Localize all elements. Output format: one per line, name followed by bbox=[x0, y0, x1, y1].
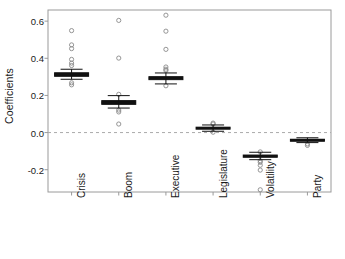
outlier-point bbox=[258, 163, 262, 167]
outlier-point bbox=[164, 47, 168, 51]
outlier-point bbox=[117, 122, 121, 126]
outlier-point bbox=[117, 56, 121, 60]
outlier-point bbox=[258, 168, 262, 172]
outlier-point bbox=[258, 188, 262, 192]
boxplot-boom bbox=[102, 18, 136, 126]
boxplot-party bbox=[290, 138, 324, 148]
plot-area bbox=[0, 0, 345, 259]
outlier-point bbox=[164, 13, 168, 17]
outlier-point bbox=[117, 18, 121, 22]
boxplot-crisis bbox=[55, 29, 89, 87]
boxplot-executive bbox=[149, 13, 183, 88]
boxplot-chart: Coefficients 0.60.40.20.0-0.2 CrisisBoom… bbox=[0, 0, 345, 259]
plot-frame bbox=[48, 10, 331, 192]
outlier-point bbox=[164, 29, 168, 33]
outlier-point bbox=[69, 29, 73, 33]
boxplot-volatility bbox=[243, 150, 277, 192]
